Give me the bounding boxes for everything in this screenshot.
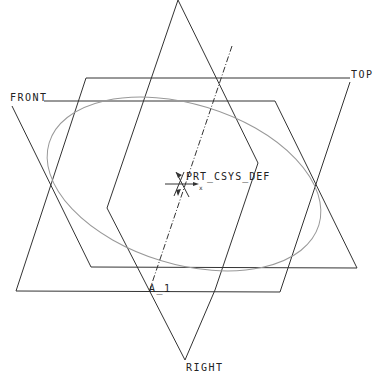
model-graphics — [0, 0, 379, 390]
label-csys[interactable]: PRT_CSYS_DEF — [186, 172, 270, 182]
label-csys-x: x — [199, 183, 203, 193]
label-front-plane[interactable]: FRONT — [10, 93, 48, 103]
label-axis-a1[interactable]: A_1 — [149, 284, 172, 294]
label-top-plane[interactable]: TOP — [351, 70, 374, 80]
model-viewport[interactable]: TOP FRONT RIGHT A_1 PRT_CSYS_DEF x — [0, 0, 379, 390]
datum-axis-a1[interactable] — [149, 46, 232, 292]
label-right-plane[interactable]: RIGHT — [186, 363, 224, 373]
